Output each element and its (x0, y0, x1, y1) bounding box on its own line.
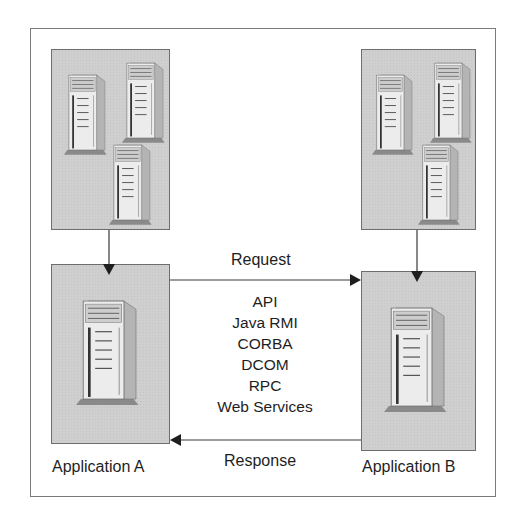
application-a-label: Application A (52, 458, 145, 476)
protocol-item: Web Services (170, 396, 360, 417)
protocol-item: DCOM (170, 354, 360, 375)
protocol-list: API Java RMI CORBA DCOM RPC Web Services (170, 291, 360, 417)
protocol-item: Java RMI (170, 312, 360, 333)
application-b-label: Application B (362, 458, 455, 476)
protocol-item: RPC (170, 375, 360, 396)
request-label: Request (231, 251, 291, 269)
response-label: Response (224, 452, 296, 470)
protocol-item: CORBA (170, 333, 360, 354)
protocol-item: API (170, 291, 360, 312)
